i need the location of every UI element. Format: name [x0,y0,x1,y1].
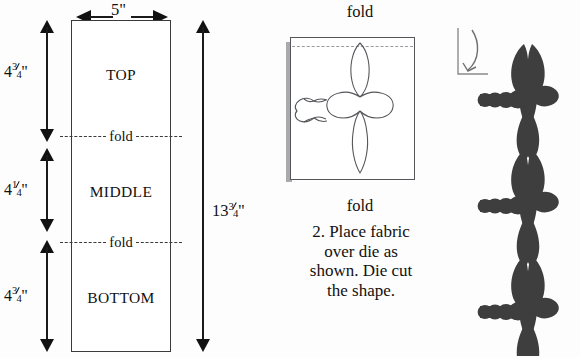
dimension-arrow-total-height [196,20,210,352]
fold-dash-left [60,242,106,243]
arrow-down-icon [40,219,54,232]
dimension-shaft-right [131,16,155,18]
dimension-label-bottom-section: 434" [4,288,28,304]
caption-line: 2. Place fabric [286,222,436,242]
dimension-arrow-top-section [40,20,54,142]
dimension-whole: 4 [4,63,12,80]
caption-line: shown. Die cut [286,261,436,281]
corner-alignment-marker [458,28,488,74]
dragonfly-silhouette [478,44,559,159]
strip-section-label-top: TOP [71,66,171,84]
fabric-fold-label-top: fold [310,2,410,22]
fold-dash-left [60,136,106,137]
strip-section-label-bottom: BOTTOM [66,289,176,307]
dimension-shaft-left [89,16,113,18]
arrow-down-icon [40,129,54,142]
dimension-unit: " [21,287,28,304]
dimension-arrow-middle-section [40,148,54,232]
dimension-shaft [202,27,204,345]
fraction-three-quarters: 34 [229,204,238,216]
fold-line-upper: fold [60,128,182,144]
fold-line-lower: fold [60,234,182,250]
dragonfly-silhouette [478,256,559,356]
dimension-whole: 13 [212,201,229,220]
width-dimension-label: 5" [111,2,126,19]
fold-dash-right [136,136,182,137]
dimension-unit: " [21,63,28,80]
dimension-shaft [46,155,48,225]
dragonfly-silhouette [478,150,559,265]
step-caption: 2. Place fabric over die as shown. Die c… [286,222,436,301]
dimension-shaft [46,247,48,345]
caption-line: the shape. [286,281,436,301]
dimension-unit: " [21,181,28,198]
fraction-one-quarter: 14 [12,184,21,195]
arrow-down-icon [40,339,54,352]
fold-dash-right [136,242,182,243]
dimension-label-middle-section: 414" [4,182,28,198]
fabric-fold-label-bottom: fold [305,196,415,216]
fraction-three-quarters: 34 [12,66,21,77]
fold-label-upper: fold [106,129,135,144]
fraction-three-quarters: 34 [12,290,21,301]
strip-section-label-middle: MIDDLE [66,183,176,201]
dimension-label-top-section: 434" [4,64,28,80]
arrow-down-icon [196,339,210,352]
dimension-shaft [46,27,48,135]
dragonfly-outline-icon [290,37,415,180]
fold-label-lower: fold [106,235,135,250]
die-silhouette-group [452,22,580,356]
dimension-label-total-height: 1334" [212,203,245,220]
dimension-whole: 4 [4,287,12,304]
diagram-canvas: 5" TOP MIDDLE BOTTOM fold fold 434" [0,0,580,358]
caption-line: over die as [286,242,436,262]
dimension-whole: 4 [4,181,12,198]
dimension-arrow-bottom-section [40,240,54,352]
